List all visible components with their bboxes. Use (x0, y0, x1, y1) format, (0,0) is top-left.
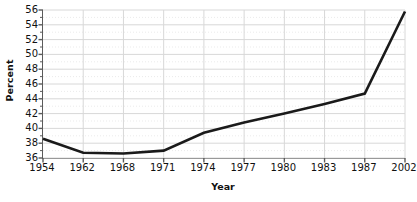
plot-area (42, 10, 405, 159)
y-axis-tick-label: 56 (25, 5, 38, 15)
y-axis-tick-label: 46 (25, 79, 38, 89)
y-axis-tick-label: 54 (25, 20, 38, 30)
x-axis-tick-label: 1974 (190, 163, 215, 173)
y-axis-tick-label: 50 (25, 49, 38, 59)
x-axis-tick-label: 1954 (29, 163, 54, 173)
x-axis-tick-label: 1977 (230, 163, 255, 173)
y-axis-title-text: Percent (4, 59, 15, 101)
plot-svg (43, 10, 405, 158)
y-axis-tick-label: 40 (25, 123, 38, 133)
x-axis-tick-label: 1962 (69, 163, 94, 173)
y-axis-tick-label: 42 (25, 109, 38, 119)
x-axis-tick-label: 2002 (391, 163, 416, 173)
y-axis-tick-labels: 3638404244464850525456 (16, 10, 38, 158)
x-axis-tick-label: 1971 (150, 163, 175, 173)
x-axis-tick-labels: 1954196219681971197419771980198319872002 (42, 163, 408, 177)
x-axis-tick-label: 1987 (351, 163, 376, 173)
x-axis-title: Year (40, 181, 406, 192)
y-axis-tick-label: 44 (25, 94, 38, 104)
x-axis-tick-label: 1980 (271, 163, 296, 173)
data-series-line (43, 11, 405, 153)
y-axis-tick-label: 48 (25, 64, 38, 74)
x-axis-tick-label: 1968 (110, 163, 135, 173)
y-axis-tick-label: 38 (25, 138, 38, 148)
y-axis-tick-label: 52 (25, 35, 38, 45)
x-axis-tick-label: 1983 (311, 163, 336, 173)
